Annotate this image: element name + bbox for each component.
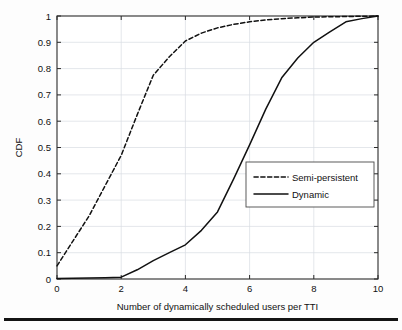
y-tick-label: 0.7 [38,89,51,100]
x-tick-label: 2 [119,283,124,294]
x-tick-label: 4 [183,283,188,294]
legend-label-semi-persistent: Semi-persistent [292,172,358,183]
page-bottom-rule [0,314,402,328]
legend-background [246,162,374,207]
legend-label-dynamic: Dynamic [292,189,329,200]
y-tick-label: 0.3 [38,195,51,206]
x-tick-label: 6 [247,283,252,294]
y-axis-title: CDF [13,138,24,158]
y-tick-label: 1 [46,11,51,22]
y-tick-label: 0.5 [38,142,51,153]
x-tick-label: 0 [54,283,59,294]
x-tick-label: 8 [311,283,316,294]
y-tick-label: 0.1 [38,247,51,258]
y-tick-label: 0 [46,274,51,285]
figure-panel: 0246810 00.10.20.30.40.50.60.70.80.91 Nu… [0,0,402,330]
x-axis-tick-labels: 0246810 [54,283,383,294]
y-tick-label: 0.2 [38,221,51,232]
cdf-chart: 0246810 00.10.20.30.40.50.60.70.80.91 Nu… [0,0,402,330]
y-tick-label: 0.8 [38,63,51,74]
x-axis-title: Number of dynamically scheduled users pe… [117,301,319,312]
y-tick-label: 0.6 [38,116,51,127]
x-tick-label: 10 [373,283,384,294]
y-axis-tick-labels: 00.10.20.30.40.50.60.70.80.91 [38,11,51,285]
y-tick-label: 0.4 [38,168,51,179]
chart-legend[interactable]: Semi-persistent Dynamic [246,162,374,207]
y-tick-label: 0.9 [38,37,51,48]
